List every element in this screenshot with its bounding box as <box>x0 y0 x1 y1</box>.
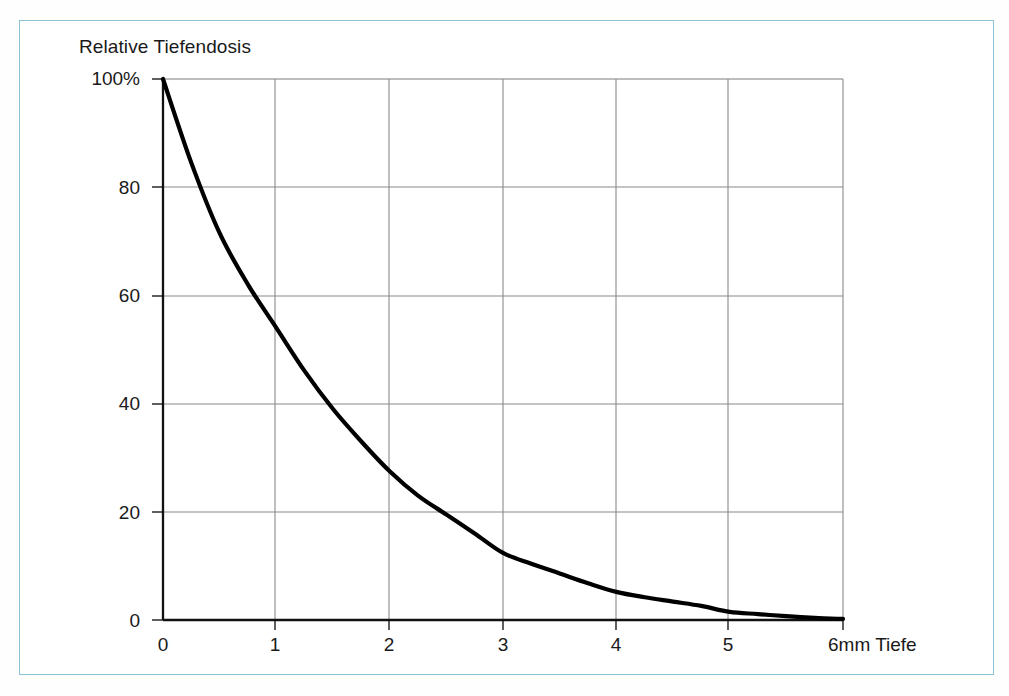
plot-area <box>0 0 1009 696</box>
x-axis-ticks <box>275 620 843 630</box>
vertical-gridlines <box>275 79 843 620</box>
figure: Relative Tiefendosis 100% 80 60 40 20 0 … <box>0 0 1009 696</box>
chart-page: Relative Tiefendosis 100% 80 60 40 20 0 … <box>0 0 1009 696</box>
y-axis-ticks <box>152 79 163 620</box>
